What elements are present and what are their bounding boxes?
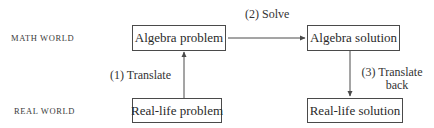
real-world-label: REAL WORLD [14, 106, 75, 116]
real-life-problem-label: Real-life problem [131, 103, 223, 119]
real-life-solution-label: Real-life solution [310, 103, 401, 119]
translate-back-step-label: (3) Translate back [360, 66, 424, 92]
real-life-solution-box: Real-life solution [307, 98, 403, 123]
math-world-label: MATH WORLD [11, 33, 74, 43]
translate-step-label: (1) Translate [110, 69, 171, 82]
algebra-solution-box: Algebra solution [307, 25, 400, 51]
algebra-problem-box: Algebra problem [132, 25, 226, 51]
translate-back-line-2: back [360, 79, 424, 92]
algebra-problem-label: Algebra problem [135, 30, 223, 46]
real-life-problem-box: Real-life problem [132, 98, 222, 123]
solve-step-label: (2) Solve [245, 8, 289, 21]
algebra-solution-label: Algebra solution [310, 30, 397, 46]
